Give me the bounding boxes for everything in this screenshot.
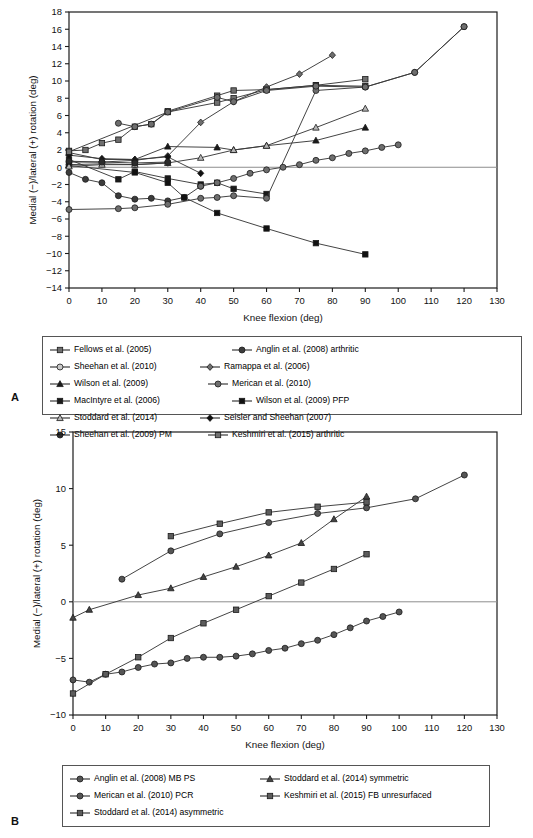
panel-b-legend: Anglin et al. (2008) MB PSStoddard et al… [62,765,490,827]
x-axis-label: Knee flexion (deg) [243,312,323,323]
data-point [148,195,154,201]
data-point [231,175,237,181]
data-point [233,607,238,612]
data-point [313,240,318,245]
y-tick-label: 4 [57,127,62,138]
x-tick-label: 30 [163,295,173,306]
legend-item: Merican et al. (2010) [207,375,357,392]
data-point [247,170,253,176]
data-point [132,124,138,130]
data-point [233,653,239,659]
data-point [66,207,72,213]
y-tick-label: 12 [52,58,62,69]
data-point [266,647,272,653]
data-point [266,593,271,598]
data-point [362,124,368,130]
series-line [69,27,464,210]
data-point [363,77,368,82]
legend-label: Anglin et al. (2008) arthritic [256,344,359,355]
y-tick-label: 14 [52,41,62,52]
series-line [73,497,367,618]
data-point [379,144,385,150]
data-point [66,169,72,175]
x-tick-label: 10 [100,722,110,733]
legend-marker [57,347,62,352]
data-point [135,664,141,670]
legend-item: Fellows et al. (2005) [49,341,231,358]
data-point [362,148,368,154]
legend-label: Stoddard et al. (2014) symmetric [284,773,409,784]
data-point [165,109,171,115]
y-axis-label: Medial (−)/lateral (+) rotation (deg) [27,75,38,224]
data-point [264,167,270,173]
plot-frame [73,432,497,715]
data-point [115,193,121,199]
legend-label: Wilson et al. (2009) [74,378,148,389]
series-7 [66,24,467,213]
legend-label: Wilson et al. (2009) PFP [256,395,349,406]
x-tick-label: 60 [261,295,271,306]
data-point [329,155,335,161]
data-point [115,120,121,126]
data-point [217,531,223,537]
x-tick-label: 20 [133,722,143,733]
legend-marker [215,381,221,387]
data-point [214,194,220,200]
legend-item: MacIntyre et al. (2006) [49,392,231,409]
data-point [296,162,302,168]
data-point [315,637,321,643]
data-point [99,180,105,186]
data-point [231,193,237,199]
data-point [298,641,304,647]
legend-marker-triangle-icon [49,378,71,390]
data-point [70,691,75,696]
data-point [264,195,270,201]
x-tick-label: 120 [457,722,473,733]
x-tick-label: 50 [231,722,241,733]
series-12 [115,24,467,130]
series-line [69,109,365,167]
data-point [313,157,319,163]
x-tick-label: 80 [329,722,339,733]
x-tick-label: 30 [166,722,176,733]
data-point [249,651,255,657]
panel-b-letter: B [11,815,19,827]
data-point [165,201,171,207]
legend-item: Keshmiri et al. (2015) FB unresurfaced [259,787,469,804]
series-line [122,475,464,579]
legend-marker [77,793,83,799]
legend-label: Fellows et al. (2005) [74,344,151,355]
y-tick-label: −10 [50,709,66,720]
legend-marker-square-icon [69,807,91,819]
data-point [165,180,170,185]
plot-frame [69,12,497,288]
data-point [264,87,270,93]
legend-label: Merican et al. (2010) PCR [94,790,193,801]
legend-marker-circle-open-icon [49,361,71,373]
legend-marker [267,793,272,798]
x-tick-label: 70 [294,295,304,306]
y-tick-label: 5 [61,540,66,551]
data-point [148,121,154,127]
legend-label: Ramappa et al. (2006) [224,361,310,372]
x-tick-label: 120 [456,295,472,306]
x-tick-label: 130 [489,295,505,306]
x-tick-label: 40 [195,295,205,306]
legend-item: Ramappa et al. (2006) [199,358,381,375]
legend-label: Anglin et al. (2008) MB PS [94,773,195,784]
legend-label: MacIntyre et al. (2006) [74,395,160,406]
data-point [329,52,335,59]
data-point [132,170,137,175]
data-point [116,177,121,182]
data-point [412,496,418,502]
data-point [280,164,286,170]
data-point [214,94,220,100]
data-point [168,635,173,640]
panel-b-chart: −10−505101501020304050607080901001101201… [0,420,533,760]
data-point [198,170,204,177]
x-tick-label: 0 [70,722,75,733]
data-point [83,147,88,152]
x-tick-label: 50 [228,295,238,306]
data-point [182,195,187,200]
y-tick-label: 15 [56,426,66,437]
